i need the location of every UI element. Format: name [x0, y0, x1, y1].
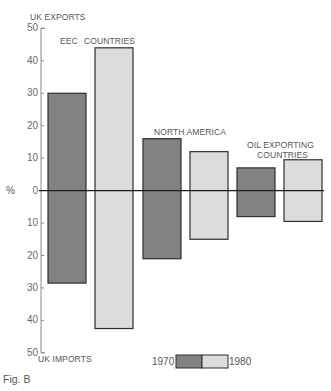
category-label-eec-countries: COUNTRIES — [84, 37, 135, 46]
bar-north-america-1980 — [190, 152, 228, 240]
y-tick-label: 30 — [20, 283, 38, 293]
legend-label-1980: 1980 — [229, 357, 251, 367]
category-label-oil-line2: COUNTRIES — [257, 151, 308, 160]
legend-swatch-1970 — [176, 355, 202, 368]
category-label-oil-line1: OIL EXPORTING — [247, 141, 314, 150]
y-tick-label: 20 — [20, 121, 38, 131]
y-tick-label: 40 — [20, 56, 38, 66]
y-axis-unit-label: % — [6, 186, 15, 196]
bar-chart — [0, 0, 331, 391]
y-tick-label: 50 — [20, 348, 38, 358]
y-tick-label: 40 — [20, 315, 38, 325]
y-tick-label: 20 — [20, 251, 38, 261]
y-tick-label: 0 — [20, 186, 38, 196]
legend-label-1970: 1970 — [152, 357, 174, 367]
bar-eec-countries-1970 — [48, 93, 86, 283]
legend-swatch-1980 — [202, 355, 228, 368]
category-label-eec: EEC — [60, 37, 78, 46]
bar-oil-exporting-countries-1970 — [237, 168, 275, 217]
y-axis-bottom-label: UK IMPORTS — [38, 355, 92, 364]
bar-north-america-1970 — [143, 139, 181, 259]
y-axis-top-label: UK EXPORTS — [30, 13, 86, 22]
y-tick-label: 10 — [20, 218, 38, 228]
bar-eec-countries-1980 — [95, 48, 133, 329]
category-label-north-america: NORTH AMERICA — [154, 128, 226, 137]
y-tick-label: 50 — [20, 23, 38, 33]
y-tick-label: 30 — [20, 88, 38, 98]
y-tick-label: 10 — [20, 153, 38, 163]
figure-caption: Fig. B — [3, 373, 30, 385]
